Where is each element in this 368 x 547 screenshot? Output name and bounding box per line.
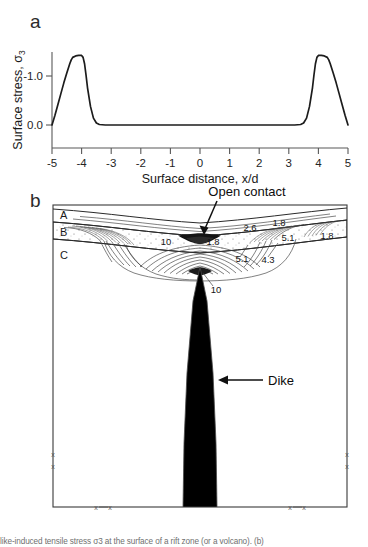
- contour-label-5-1-b: 5.1: [235, 253, 248, 264]
- bc-mark-left-1: x: [51, 451, 55, 458]
- dike-arrow-icon: [218, 376, 263, 385]
- bc-mark-left-2: x: [51, 463, 55, 470]
- y-tick-marks: [46, 76, 52, 125]
- x-tick-label-9: 4: [315, 157, 322, 169]
- x-tick-marks: [52, 148, 348, 154]
- contour-label-1-8-a: 1.8: [272, 217, 285, 228]
- figure-caption: like-induced tensile stress σ3 at the su…: [0, 536, 368, 547]
- x-tick-label-2: -3: [106, 157, 116, 169]
- layer-a-top-surface: [53, 208, 347, 223]
- contour-label-1-8-c: 1.8: [320, 230, 333, 241]
- open-contact-arrow-icon: [200, 201, 218, 235]
- bc-mark-bottom-4: x: [302, 504, 306, 511]
- contour-label-10-b: 10: [211, 284, 222, 295]
- contour-label-1-8-b: 1.8: [206, 236, 219, 247]
- panel-a-plot: -1.0 0.0 -5 -4 -3 -2 -1 0 1: [0, 0, 368, 185]
- y-tick-label-1: 0.0: [27, 119, 43, 131]
- x-tick-label-6: 1: [226, 157, 232, 169]
- panel-b: b: [0, 183, 368, 547]
- contour-label-4-3: 4.3: [261, 254, 274, 265]
- figure-container: a -1.0 0.0: [0, 0, 368, 547]
- contour-label-10-a: 10: [161, 236, 172, 247]
- stress-curve: [52, 55, 348, 125]
- x-tick-label-8: 3: [286, 157, 292, 169]
- panel-b-label: b: [30, 191, 41, 210]
- bc-mark-bottom-2: x: [108, 504, 112, 511]
- x-tick-label-0: -5: [47, 157, 57, 169]
- x-tick-label-3: -2: [136, 157, 146, 169]
- contour-10-leader-line: [203, 273, 213, 286]
- x-tick-label-7: 2: [256, 157, 262, 169]
- panel-a: a -1.0 0.0: [0, 0, 368, 185]
- contour-label-5-1-a: 5.1: [281, 232, 294, 243]
- y-axis-title: Surface stress, σ3: [11, 50, 27, 150]
- dike-body: [183, 267, 217, 507]
- x-tick-label-1: -4: [76, 157, 87, 169]
- layer-label-a: A: [60, 209, 68, 221]
- panel-a-label: a: [30, 12, 41, 31]
- open-contact-annotation-label: Open contact: [208, 184, 286, 199]
- bc-mark-right-1: x: [345, 451, 349, 458]
- x-tick-label-4: -1: [165, 157, 175, 169]
- dike-annotation-label: Dike: [268, 373, 294, 388]
- x-tick-label-10: 5: [345, 157, 351, 169]
- bc-mark-right-3: x: [345, 463, 349, 470]
- bc-mark-bottom-3: x: [288, 504, 292, 511]
- panel-b-model-diagram: A B C 1.8 2.6 1.8 5.1 1.8 10 5.1 4.3 10 …: [0, 183, 368, 547]
- contour-label-2-6: 2.6: [243, 222, 256, 233]
- layer-label-c: C: [60, 249, 68, 261]
- x-tick-label-5: 0: [197, 157, 203, 169]
- layer-label-b: B: [60, 226, 67, 238]
- y-tick-label-0: -1.0: [23, 70, 43, 82]
- bc-mark-bottom-1: x: [94, 504, 98, 511]
